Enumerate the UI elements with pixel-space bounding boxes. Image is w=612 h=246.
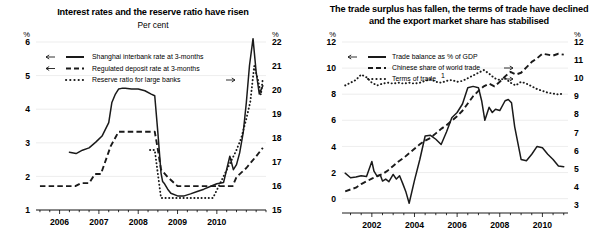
x-axis-tick-label: 2010 (207, 217, 226, 227)
right-axis-unit-label: % (272, 30, 279, 39)
legend-label: Shanghai interbank rate at 3-months (92, 53, 204, 61)
legend-label: Reserve ratio for large banks (92, 76, 181, 84)
right-axis-tick-label: 18 (272, 133, 282, 143)
right-axis-tick-label: 8 (574, 109, 579, 119)
x-axis-tick-label: 2002 (362, 220, 381, 230)
left-axis-tick-label: 6 (331, 115, 336, 125)
legend-entry-1: Shanghai interbank rate at 3-months (46, 53, 204, 61)
left-axis-tick-label: 4 (331, 142, 336, 152)
legend-entry-3: Reserve ratio for large banks (66, 76, 235, 84)
right-axis-unit-label: % (574, 30, 581, 39)
legend-entry-1: Trade balance as % of GDP (348, 53, 478, 60)
right-axis-tick-label: 10 (574, 73, 584, 83)
series-line-1 (345, 86, 564, 203)
right-axis-tick-label: 15 (272, 205, 282, 215)
x-axis-tick-label: 2008 (490, 220, 509, 230)
left-axis-tick-label: 2 (331, 168, 336, 178)
right-axis-tick-label: 5 (574, 164, 579, 174)
right-axis-tick-label: 3 (574, 200, 579, 210)
series-line-1 (69, 39, 262, 196)
right-axis-tick-label: 9 (574, 91, 579, 101)
series-line-3 (345, 70, 564, 94)
left-axis-unit-label: % (329, 30, 336, 39)
right-axis-tick-label: 7 (574, 128, 579, 138)
right-chart-svg: 0246810123456789101112%%2002200420062008… (306, 0, 612, 246)
x-axis-tick-label: 2006 (448, 220, 467, 230)
left-axis-tick-label: 10 (326, 63, 336, 73)
right-axis-tick-label: 19 (272, 109, 282, 119)
right-axis-tick-label: 21 (272, 61, 282, 71)
legend-label: Trade balance as % of GDP (392, 53, 478, 60)
x-axis-tick-label: 2004 (405, 220, 424, 230)
left-axis-tick-label: 3 (25, 138, 30, 148)
series-line-3 (150, 66, 263, 198)
left-axis-tick-label: 1 (25, 205, 30, 215)
chart-panel-interest-rates: Interest rates and the reserve ratio hav… (0, 0, 306, 246)
legend-label: Terms of trade (392, 75, 436, 82)
left-axis-tick-label: 5 (25, 71, 30, 81)
left-axis-tick-label: 0 (331, 194, 336, 204)
left-axis-tick-label: 2 (25, 172, 30, 182)
right-axis-tick-label: 11 (574, 55, 583, 65)
left-axis-tick-label: 8 (331, 89, 336, 99)
legend-entry-2: Regulated deposit rate at 3-months (46, 65, 200, 73)
right-axis-tick-label: 6 (574, 146, 579, 156)
chart-panel-trade: The trade surplus has fallen, the terms … (306, 0, 612, 246)
x-axis-tick-label: 2010 (533, 220, 552, 230)
right-axis-tick-label: 20 (272, 85, 282, 95)
legend-label: Regulated deposit rate at 3-months (92, 65, 200, 73)
left-axis-unit-label: % (23, 30, 30, 39)
legend-entry-3: Terms of trade 1 (368, 72, 513, 82)
legend-label: Chinese share of world trade (392, 64, 480, 71)
x-axis-tick-label: 2009 (168, 217, 187, 227)
series-line-2 (345, 54, 564, 192)
x-axis-tick-label: 2006 (50, 217, 69, 227)
right-axis-tick-label: 16 (272, 181, 282, 191)
x-axis-tick-label: 2007 (89, 217, 108, 227)
left-axis-tick-label: 4 (25, 104, 30, 114)
figure-container: Interest rates and the reserve ratio hav… (0, 0, 612, 246)
x-axis-tick-label: 2008 (129, 217, 148, 227)
right-axis-tick-label: 4 (574, 182, 579, 192)
right-axis-tick-label: 17 (272, 157, 282, 167)
legend-footnote-marker: 1 (441, 72, 445, 79)
left-chart-svg: 1234561516171819202122%%2006200720082009… (0, 0, 306, 246)
